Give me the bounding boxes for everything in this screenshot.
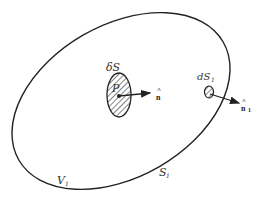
- label-v1-sub: 1: [65, 180, 69, 187]
- diagram-canvas: δS P ^ n dS 1 ^ n 1 V 1 S 1: [0, 0, 265, 200]
- label-ds1-sub: 1: [211, 76, 215, 83]
- label-n: n: [156, 93, 161, 102]
- label-n1: n: [241, 104, 246, 113]
- label-n1-sub: 1: [248, 107, 251, 113]
- label-s1-sub: 1: [166, 172, 170, 179]
- label-p: P: [111, 82, 120, 95]
- label-delta-s: δS: [106, 61, 121, 74]
- label-ds1: dS: [197, 71, 210, 82]
- boundary-surface-element: [205, 86, 214, 98]
